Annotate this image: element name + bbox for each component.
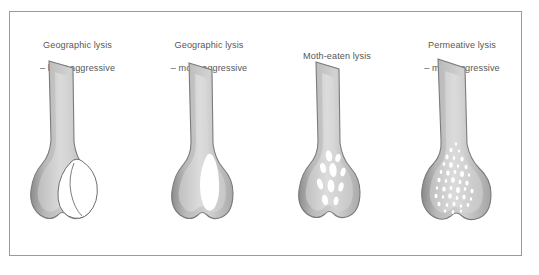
bone-illustration [273, 12, 401, 255]
lesion-dot [444, 209, 446, 212]
lesion-dot [450, 186, 453, 190]
lesion-dot [455, 142, 457, 146]
bone-lysis-figure: Geographic lysis – least aggressive [0, 0, 539, 275]
lesion-dot [465, 165, 468, 169]
lesion-dot [446, 170, 450, 175]
lesion-dot [468, 173, 470, 176]
lesion-dot [445, 179, 448, 183]
lesion-dot [448, 193, 452, 198]
lesion-dot [442, 195, 444, 199]
panel-geographic-least-aggressive: Geographic lysis – least aggressive [10, 12, 145, 255]
lesion-dot [471, 189, 474, 193]
panel-geographic-more-aggressive: Geographic lysis – more aggressive [145, 12, 273, 255]
lesion-dot [456, 187, 460, 193]
lesion-dot [449, 162, 453, 168]
medullary-canal [430, 71, 483, 213]
lesion-dot [456, 196, 459, 200]
lesion-dot [443, 162, 446, 166]
lesion-dot [435, 194, 438, 198]
lesion-dot [446, 203, 449, 207]
panel-permeative: Permeative lysis – most aggressive [401, 12, 523, 255]
lesion-dot [465, 181, 468, 186]
lesion-dot [440, 170, 443, 174]
lesion-dot [453, 156, 456, 160]
lesion-dot [445, 155, 448, 160]
lesion-dot [460, 209, 462, 212]
lesion-dot [464, 187, 467, 191]
lesion-dot [460, 171, 464, 177]
lesion-dot [458, 149, 460, 152]
lesion-dot [467, 203, 470, 207]
lesion-dot [453, 202, 456, 206]
lesion-dot [437, 202, 440, 207]
lesion-dot [436, 186, 438, 190]
lesion-dot [459, 180, 462, 184]
lesion-dot [462, 195, 465, 200]
lesion-dot [442, 186, 446, 191]
lesion-dot [451, 177, 455, 183]
lesion-dot [470, 197, 472, 201]
lesion-dot [452, 210, 455, 214]
bone-illustration [145, 12, 273, 255]
bone-illustration [10, 12, 145, 255]
panel-moth-eaten: Moth-eaten lysis [273, 12, 401, 255]
lesion-dot [437, 178, 440, 183]
lesion-dot [454, 170, 457, 174]
figure-frame: Geographic lysis – least aggressive [9, 11, 522, 256]
lesion-dot [450, 148, 453, 152]
lesion-dot [460, 204, 462, 207]
lesion-dot [457, 164, 459, 168]
bone-illustration [401, 12, 523, 255]
lesion-dot [460, 156, 463, 161]
